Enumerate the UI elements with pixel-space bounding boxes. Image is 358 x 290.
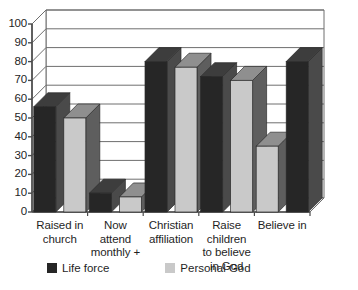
legend-label-life-force: Life force: [62, 262, 109, 274]
bar-personal-god-2-front: [175, 67, 197, 212]
x-tick-label-line: monthly +: [75, 246, 155, 260]
chart-legend: Life force Personal God: [47, 262, 251, 274]
legend-spacer: [109, 268, 165, 269]
legend-swatch-life-force: [47, 263, 57, 273]
x-tick-label-4: Believe in: [242, 219, 322, 233]
bar-personal-god-1-front: [119, 197, 141, 212]
bar-life-force-3-front: [201, 77, 223, 212]
legend-label-personal-god: Personal God: [180, 262, 250, 274]
bar-life-force-2-front: [145, 62, 167, 212]
bar-chart: 0102030405060708090100 Raised inchurchNo…: [0, 0, 358, 290]
x-tick-label-line: to believe: [187, 246, 267, 260]
bar-life-force-0-front: [34, 107, 56, 212]
legend-swatch-personal-god: [165, 263, 175, 273]
x-tick-label-line: children: [187, 233, 267, 247]
legend-item-life-force: Life force: [47, 262, 109, 274]
bar-personal-god-4-front: [256, 146, 278, 212]
bar-life-force-4-side: [308, 48, 322, 212]
bar-personal-god-3-front: [231, 80, 253, 212]
bar-personal-god-0-front: [64, 118, 86, 212]
plot-area: [0, 0, 358, 290]
bar-life-force-4-front: [286, 62, 308, 212]
x-tick-label-line: Believe in: [242, 219, 322, 233]
bar-life-force-1-front: [89, 193, 111, 212]
legend-item-personal-god: Personal God: [165, 262, 250, 274]
